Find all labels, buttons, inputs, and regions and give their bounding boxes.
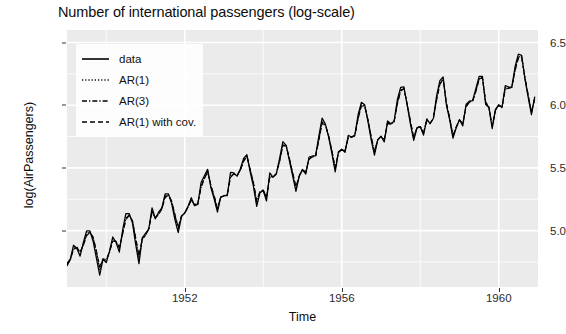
legend-key-icon [81, 94, 110, 108]
legend-item: AR(3) [81, 90, 196, 111]
x-tick-mark [499, 288, 500, 292]
x-tick-label: 1952 [155, 292, 215, 304]
chart-legend: dataAR(1)AR(3)AR(1) with cov. [76, 44, 203, 137]
chart-figure: Number of international passengers (log-… [0, 0, 566, 334]
legend-key-icon [81, 52, 110, 66]
y-tick-mark [62, 167, 66, 168]
legend-label: data [119, 53, 141, 65]
legend-item: data [81, 48, 196, 69]
y-tick-mark [62, 105, 66, 106]
y-tick-mark [62, 42, 66, 43]
x-tick-label: 1960 [469, 292, 529, 304]
legend-item: AR(1) with cov. [81, 111, 196, 132]
x-axis-title: Time [67, 310, 538, 324]
legend-key-icon [81, 115, 110, 129]
x-tick-mark [185, 288, 186, 292]
y-tick-mark [62, 230, 66, 231]
chart-title: Number of international passengers (log-… [58, 3, 355, 21]
legend-label: AR(1) [119, 74, 149, 86]
legend-label: AR(3) [119, 95, 149, 107]
y-axis-title: log(AirPassengers) [22, 60, 36, 250]
legend-key-icon [81, 73, 110, 87]
x-tick-label: 1956 [312, 292, 372, 304]
x-tick-mark [342, 288, 343, 292]
legend-item: AR(1) [81, 69, 196, 90]
legend-label: AR(1) with cov. [119, 116, 196, 128]
